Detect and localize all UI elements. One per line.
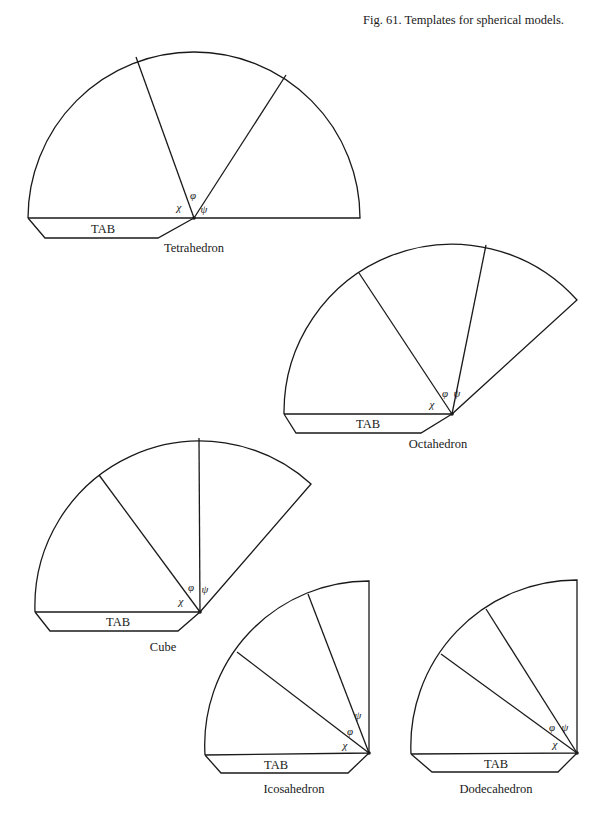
- template-name: Cube: [150, 640, 177, 654]
- angle-phi-label: φ: [188, 581, 194, 593]
- fold-line: [136, 57, 194, 218]
- angle-phi-label: φ: [442, 387, 448, 399]
- tab-label: TAB: [106, 615, 130, 629]
- template-tetrahedron: TABTetrahedronχφψ: [28, 52, 360, 255]
- template-name: Dodecahedron: [460, 782, 534, 796]
- tab-label: TAB: [91, 222, 115, 236]
- angle-phi-label: φ: [347, 725, 353, 737]
- tab-label: TAB: [356, 417, 380, 431]
- figure-canvas: Fig. 61. Templates for spherical models.…: [0, 0, 612, 829]
- angle-chi-label: χ: [178, 595, 185, 607]
- sector-outline: [284, 244, 577, 414]
- fold-line: [359, 273, 452, 414]
- template-cube: TABCubeχφψ: [35, 438, 311, 654]
- angle-chi-label: χ: [429, 398, 436, 410]
- angle-chi-label: χ: [342, 739, 349, 751]
- angle-psi-label: ψ: [454, 387, 461, 399]
- angle-chi-label: χ: [176, 201, 183, 213]
- apex-dot: [450, 412, 454, 416]
- template-octahedron: TABOctahedronχφψ: [284, 244, 577, 451]
- apex-dot: [367, 751, 371, 755]
- tab-label: TAB: [484, 757, 508, 771]
- angle-psi-label: ψ: [201, 203, 208, 215]
- angle-phi-label: φ: [549, 721, 555, 733]
- templates-drawing: TABTetrahedronχφψTABOctahedronχφψTABCube…: [0, 0, 612, 829]
- fold-line: [199, 438, 200, 612]
- angle-phi-label: φ: [190, 189, 196, 201]
- angle-chi-label: χ: [552, 738, 559, 750]
- angle-psi-label: ψ: [562, 721, 569, 733]
- sector-outline: [205, 581, 369, 755]
- angle-psi-label: ψ: [355, 709, 362, 721]
- angle-psi-label: ψ: [202, 583, 209, 595]
- apex-dot: [192, 216, 196, 220]
- template-dodecahedron: TABDodecahedronχφψ: [411, 580, 579, 796]
- figure-caption: Fig. 61. Templates for spherical models.: [363, 13, 564, 28]
- fold-line: [99, 475, 200, 612]
- template-name: Icosahedron: [263, 782, 325, 796]
- sector-outline: [35, 441, 311, 612]
- template-name: Octahedron: [409, 437, 468, 451]
- template-icosahedron: TABIcosahedronχφψ: [205, 581, 371, 796]
- tab-label: TAB: [264, 758, 288, 772]
- template-name: Tetrahedron: [164, 241, 225, 255]
- apex-dot: [575, 751, 579, 755]
- fold-line: [194, 75, 286, 218]
- apex-dot: [198, 610, 202, 614]
